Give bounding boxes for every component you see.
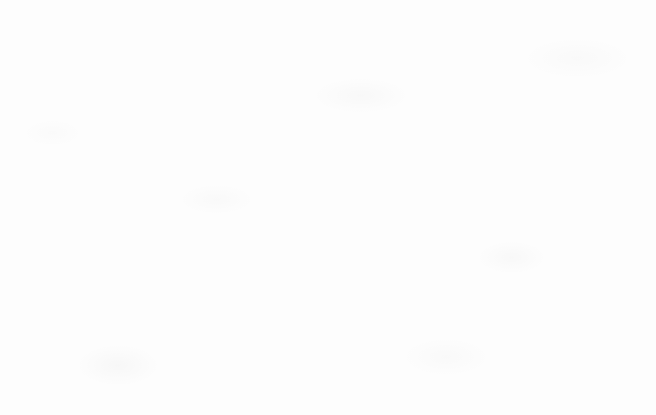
- figure-canvas: [0, 0, 656, 415]
- chart-svg: [0, 0, 656, 415]
